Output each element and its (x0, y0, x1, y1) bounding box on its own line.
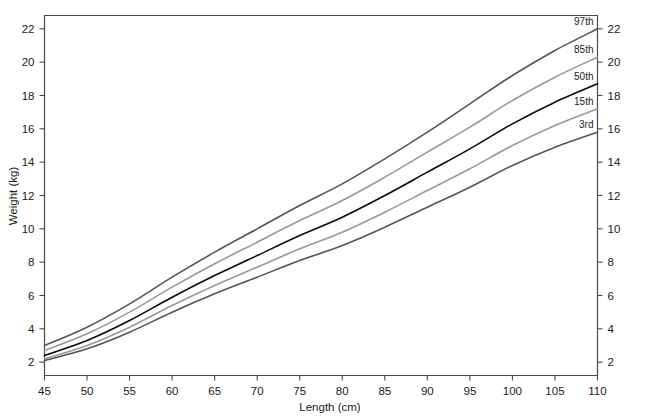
x-tick-label: 100 (503, 385, 522, 397)
y-tick-label-right: 20 (608, 56, 621, 68)
y-tick-label-left: 8 (28, 256, 34, 268)
y-tick-label-left: 6 (28, 290, 34, 302)
y-tick-label-right: 18 (608, 90, 621, 102)
y-tick-label-left: 16 (22, 123, 35, 135)
x-tick-label: 45 (38, 385, 51, 397)
y-tick-label-right: 2 (608, 356, 614, 368)
y-tick-label-right: 10 (608, 223, 621, 235)
percentile-curve-3rd (45, 132, 598, 360)
chart-canvas: 4550556065707580859095100105110 24681012… (0, 0, 657, 418)
y-tick-label-right: 14 (608, 156, 621, 168)
y-tick-label-left: 14 (22, 156, 35, 168)
y-axis-ticks-right: 246810121416182022 (598, 23, 621, 368)
x-tick-label: 75 (293, 385, 306, 397)
percentile-curves (45, 29, 598, 361)
percentile-label-50th: 50th (574, 71, 593, 82)
y-tick-label-left: 12 (22, 190, 35, 202)
y-tick-label-left: 10 (22, 223, 35, 235)
y-tick-label-left: 18 (22, 90, 35, 102)
x-tick-label: 105 (545, 385, 564, 397)
weight-for-length-chart: 4550556065707580859095100105110 24681012… (0, 0, 657, 418)
percentile-label-97th: 97th (574, 16, 593, 27)
percentile-curve-85th (45, 57, 598, 350)
x-tick-label: 85 (378, 385, 391, 397)
y-tick-label-left: 4 (28, 323, 35, 335)
y-tick-label-right: 16 (608, 123, 621, 135)
y-tick-label-left: 2 (28, 356, 34, 368)
percentile-curve-50th (45, 84, 598, 356)
y-tick-label-right: 22 (608, 23, 621, 35)
y-tick-label-right: 8 (608, 256, 614, 268)
x-tick-label: 90 (421, 385, 434, 397)
x-tick-label: 60 (166, 385, 179, 397)
x-tick-label: 80 (336, 385, 349, 397)
y-tick-label-right: 12 (608, 190, 621, 202)
y-tick-label-right: 6 (608, 290, 614, 302)
y-tick-label-right: 4 (608, 323, 615, 335)
y-axis-ticks-left: 246810121416182022 (22, 23, 45, 368)
x-axis-title: Length (cm) (299, 401, 361, 413)
percentile-label-15th: 15th (574, 96, 593, 107)
y-axis-title: Weight (kg) (7, 167, 19, 226)
x-tick-label: 55 (123, 385, 136, 397)
x-tick-label: 65 (208, 385, 221, 397)
percentile-label-85th: 85th (574, 44, 593, 55)
y-tick-label-left: 22 (22, 23, 35, 35)
x-axis-ticks: 4550556065707580859095100105110 (38, 376, 607, 397)
x-tick-label: 95 (463, 385, 476, 397)
percentile-label-3rd: 3rd (579, 119, 593, 130)
x-tick-label: 110 (588, 385, 606, 397)
y-tick-label-left: 20 (22, 56, 35, 68)
x-tick-label: 50 (81, 385, 94, 397)
x-tick-label: 70 (251, 385, 264, 397)
percentile-curve-97th (45, 29, 598, 346)
